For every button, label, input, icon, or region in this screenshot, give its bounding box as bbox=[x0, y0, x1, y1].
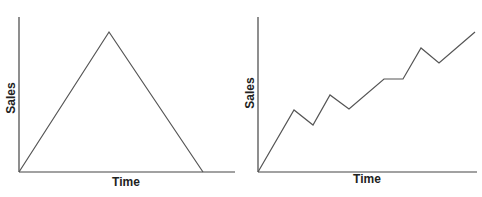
chart-right: Sales Time bbox=[241, 0, 482, 197]
sales-line bbox=[19, 32, 203, 172]
y-axis-label: Sales bbox=[243, 77, 257, 109]
chart-left: Sales Time bbox=[0, 0, 241, 197]
sales-line bbox=[258, 32, 475, 172]
x-axis-label: Time bbox=[112, 175, 140, 189]
y-axis-label: Sales bbox=[4, 82, 18, 114]
x-axis-label: Time bbox=[353, 172, 381, 186]
